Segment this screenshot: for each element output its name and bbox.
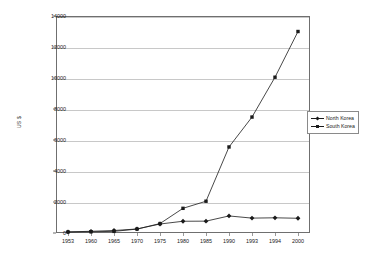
data-point-marker	[273, 76, 276, 79]
series-line	[68, 216, 298, 232]
data-point-marker	[181, 219, 186, 224]
x-tick-mark	[229, 233, 230, 236]
data-point-marker	[273, 215, 278, 220]
x-tick-label: 1960	[85, 238, 97, 244]
x-tick-label: 1985	[200, 238, 212, 244]
series-layer	[56, 16, 310, 233]
x-tick-mark	[275, 233, 276, 236]
data-point-marker	[250, 115, 253, 118]
data-point-marker	[296, 216, 301, 221]
data-point-marker	[227, 145, 230, 148]
legend-label: South Korea	[326, 123, 355, 130]
data-point-marker	[204, 200, 207, 203]
legend-item[interactable]: South Korea	[311, 122, 355, 130]
data-point-marker	[181, 207, 184, 210]
x-tick-label: 1980	[177, 238, 189, 244]
line-chart: US $ 02000400060008000100001200014000 19…	[0, 0, 378, 259]
x-tick-label: 1975	[154, 238, 166, 244]
legend-marker-icon	[311, 123, 324, 130]
data-point-marker	[250, 216, 255, 221]
data-point-marker	[135, 227, 138, 230]
legend: North KoreaSouth Korea	[307, 111, 359, 134]
data-point-marker	[66, 230, 69, 233]
x-tick-label: 2000	[292, 238, 304, 244]
data-point-marker	[112, 230, 115, 233]
x-tick-mark	[298, 233, 299, 236]
x-tick-mark	[252, 233, 253, 236]
x-tick-mark	[183, 233, 184, 236]
data-point-marker	[227, 214, 232, 219]
data-point-marker	[89, 230, 92, 233]
x-tick-mark	[137, 233, 138, 236]
data-point-marker	[158, 222, 161, 225]
x-tick-mark	[114, 233, 115, 236]
legend-label: North Korea	[326, 115, 354, 122]
series-line	[68, 32, 298, 232]
x-tick-label: 1994	[269, 238, 281, 244]
x-tick-label: 1965	[108, 238, 120, 244]
x-tick-mark	[206, 233, 207, 236]
x-tick-label: 1953	[62, 238, 74, 244]
x-tick-mark	[160, 233, 161, 236]
x-tick-label: 1993	[246, 238, 258, 244]
legend-marker-icon	[311, 115, 324, 122]
data-point-marker	[296, 30, 299, 33]
legend-item[interactable]: North Korea	[311, 114, 355, 122]
x-tick-label: 1990	[223, 238, 235, 244]
x-tick-label: 1970	[131, 238, 143, 244]
data-point-marker	[204, 219, 209, 224]
